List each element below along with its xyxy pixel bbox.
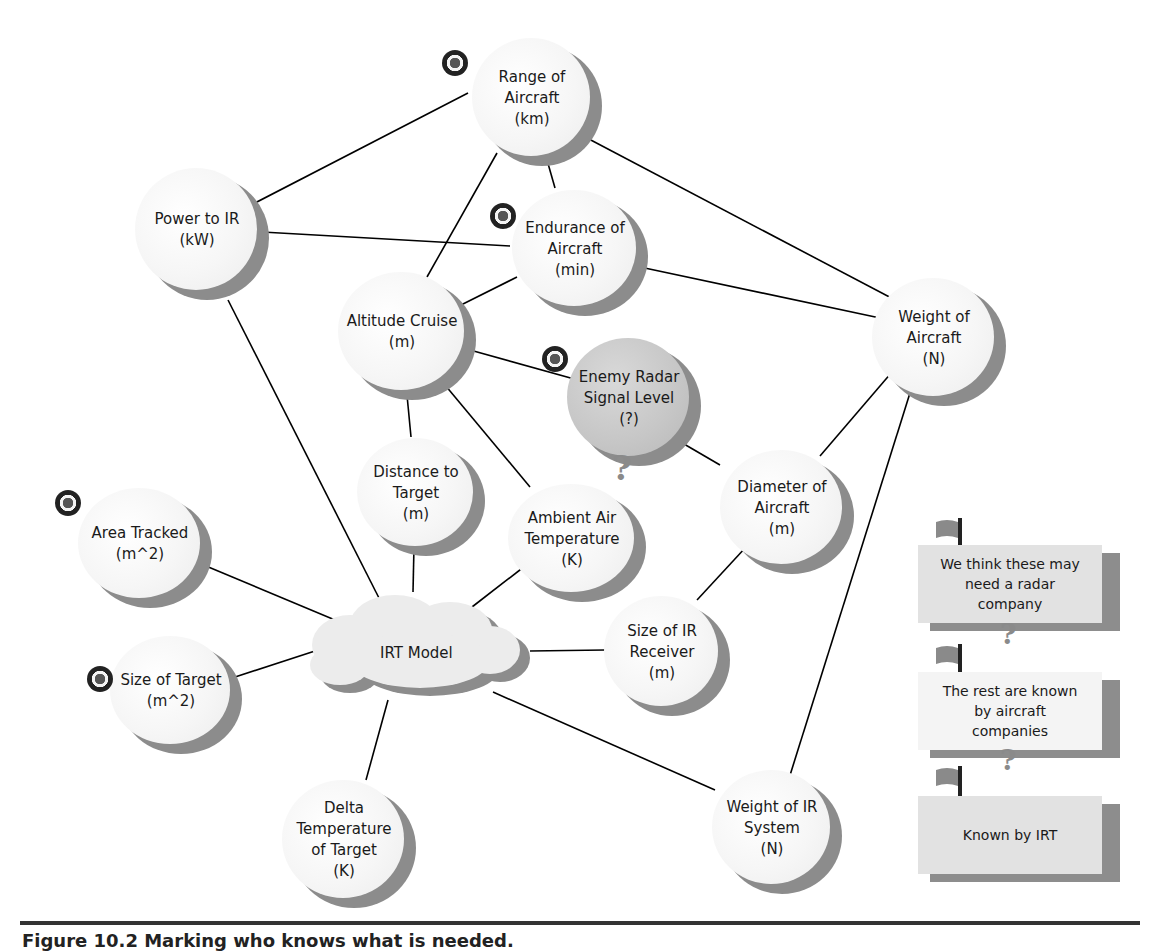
figure-caption: Figure 10.2 Marking who knows what is ne… xyxy=(22,930,514,951)
question-mark-icon: ? xyxy=(1000,744,1016,777)
node-label-line: Aircraft xyxy=(755,498,810,519)
question-mark-icon: ? xyxy=(1000,618,1016,651)
node-weight-of-ir-system: Weight of IR System (N) xyxy=(712,770,832,886)
node-label-line: Area Tracked xyxy=(92,523,189,544)
node-area-tracked: Area Tracked (m^2) xyxy=(78,488,202,600)
legend-label-line: The rest are known xyxy=(943,681,1078,701)
bullseye-icon xyxy=(87,666,113,692)
node-label-line: (m) xyxy=(389,332,415,353)
cloud-label: IRT Model xyxy=(380,644,453,662)
node-size-of-ir-receiver: Size of IR Receiver (m) xyxy=(604,596,720,708)
node-delta-temperature-of-target: Delta Temperature of Target (K) xyxy=(282,780,406,900)
legend-label-line: by aircraft xyxy=(974,701,1046,721)
node-label-line: (m) xyxy=(403,504,429,525)
node-ambient-air-temperature: Ambient Air Temperature (K) xyxy=(508,484,636,594)
node-label-line: Weight of xyxy=(898,307,969,328)
node-label-line: Target xyxy=(393,483,439,504)
bullseye-icon xyxy=(542,346,568,372)
node-label-line: Size of IR xyxy=(627,621,697,642)
node-label-line: Altitude Cruise xyxy=(347,311,458,332)
bullseye-icon xyxy=(55,490,81,516)
node-label-line: (min) xyxy=(555,260,595,281)
node-endurance-of-aircraft: Endurance of Aircraft (min) xyxy=(512,190,638,308)
node-label-line: (N) xyxy=(923,349,946,370)
node-label-line: Signal Level xyxy=(584,388,674,409)
legend-label-line: companies xyxy=(972,721,1048,741)
legend-label-line: need a radar xyxy=(965,574,1055,594)
node-label-line: Delta xyxy=(324,798,364,819)
node-label-line: Temperature xyxy=(524,529,619,550)
node-label-line: Size of Target xyxy=(120,670,221,691)
node-diameter-of-aircraft: Diameter of Aircraft (m) xyxy=(720,450,844,566)
node-label-line: (kW) xyxy=(179,230,214,251)
legend-item-aircraft-companies: The rest are known by aircraft companies xyxy=(918,672,1108,754)
bullseye-icon xyxy=(442,50,468,76)
node-label-line: Diameter of xyxy=(737,477,826,498)
bullseye-icon xyxy=(490,203,516,229)
node-label-line: of Target xyxy=(311,840,377,861)
node-label-line: Aircraft xyxy=(505,88,560,109)
node-range-of-aircraft: Range of Aircraft (km) xyxy=(472,38,592,158)
node-label-line: (?) xyxy=(619,409,639,430)
legend-label-line: company xyxy=(978,594,1043,614)
node-label-line: (N) xyxy=(761,839,784,860)
node-distance-to-target: Distance to Target (m) xyxy=(357,438,475,548)
node-label-line: (K) xyxy=(333,861,355,882)
caption-divider xyxy=(20,921,1140,925)
node-label-line: Receiver xyxy=(630,642,695,663)
node-label-line: Temperature xyxy=(296,819,391,840)
node-label-line: Power to IR xyxy=(155,209,240,230)
node-label-line: Aircraft xyxy=(907,328,962,349)
node-label-line: (K) xyxy=(561,550,583,571)
node-label-line: Weight of IR xyxy=(726,797,817,818)
legend-item-known-by-irt: Known by IRT xyxy=(918,796,1108,878)
node-label-line: (m^2) xyxy=(147,691,195,712)
node-label-line: Aircraft xyxy=(548,239,603,260)
node-label-line: System xyxy=(744,818,800,839)
node-size-of-target: Size of Target (m^2) xyxy=(110,636,232,746)
node-label-line: Ambient Air xyxy=(528,508,617,529)
node-label-line: Enemy Radar xyxy=(579,367,680,388)
node-altitude-cruise: Altitude Cruise (m) xyxy=(338,272,466,392)
node-weight-of-aircraft: Weight of Aircraft (N) xyxy=(872,278,996,398)
node-enemy-radar-signal-level: Enemy Radar Signal Level (?) xyxy=(567,338,691,458)
node-power-to-ir: Power to IR (kW) xyxy=(135,168,259,292)
node-label-line: Distance to xyxy=(373,462,458,483)
node-label-line: Range of xyxy=(499,67,566,88)
node-label-line: Endurance of xyxy=(525,218,625,239)
node-label-line: (km) xyxy=(514,109,549,130)
legend-label-line: We think these may xyxy=(940,554,1080,574)
question-mark-icon: ? xyxy=(612,448,632,488)
node-label-line: (m) xyxy=(649,663,675,684)
node-label-line: (m^2) xyxy=(116,544,164,565)
legend-label-line: Known by IRT xyxy=(963,825,1057,845)
node-label-line: (m) xyxy=(769,519,795,540)
legend-item-radar-company: We think these may need a radar company xyxy=(918,545,1108,627)
